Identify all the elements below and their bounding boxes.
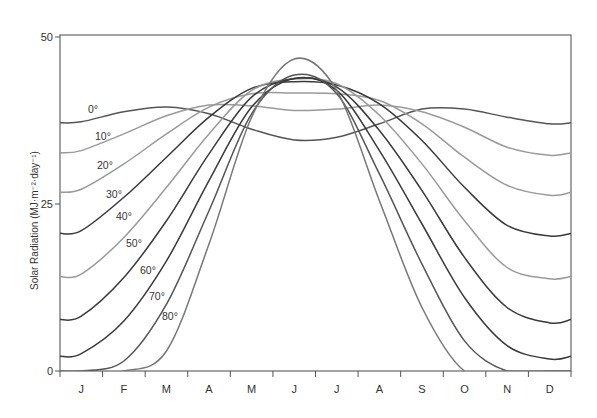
- month-label: S: [418, 383, 425, 395]
- month-label: J: [334, 383, 340, 395]
- curve-label-0deg: 0°: [88, 103, 98, 115]
- curve-label-80deg: 80°: [162, 310, 178, 322]
- curve-10deg: [60, 104, 571, 155]
- month-label: F: [121, 383, 128, 395]
- y-tick-50: 50: [41, 31, 53, 43]
- month-label: O: [460, 383, 469, 395]
- month-label: N: [503, 383, 511, 395]
- curve-label-50deg: 50°: [126, 237, 142, 249]
- curve-label-10deg: 10°: [95, 130, 111, 142]
- curve-label-60deg: 60°: [140, 264, 156, 276]
- y-axis: 50 25 0 Solar Radiation (MJ·m⁻²·day⁻¹): [29, 31, 60, 377]
- y-axis-label: Solar Radiation (MJ·m⁻²·day⁻¹): [29, 151, 40, 290]
- curve-label-30deg: 30°: [106, 188, 122, 200]
- month-label: M: [162, 383, 171, 395]
- month-label: J: [79, 383, 85, 395]
- curve-20deg: [60, 93, 571, 196]
- y-tick-0: 0: [47, 365, 53, 377]
- plot-frame: [60, 35, 571, 371]
- curve-60deg: [60, 77, 571, 359]
- curve-30deg: [60, 82, 571, 237]
- x-axis: JFMAMJJASOND: [60, 371, 571, 395]
- month-label: A: [205, 383, 213, 395]
- curve-0deg: [60, 107, 571, 140]
- month-label: A: [376, 383, 384, 395]
- month-label: D: [546, 383, 554, 395]
- month-label: M: [247, 383, 256, 395]
- curve-label-40deg: 40°: [116, 210, 132, 222]
- month-label: J: [291, 383, 297, 395]
- curve-label-70deg: 70°: [149, 290, 165, 302]
- curve-label-20deg: 20°: [97, 159, 113, 171]
- y-tick-25: 25: [41, 198, 53, 210]
- curves: [60, 58, 571, 376]
- solar-radiation-chart: 50 25 0 Solar Radiation (MJ·m⁻²·day⁻¹) J…: [0, 0, 597, 418]
